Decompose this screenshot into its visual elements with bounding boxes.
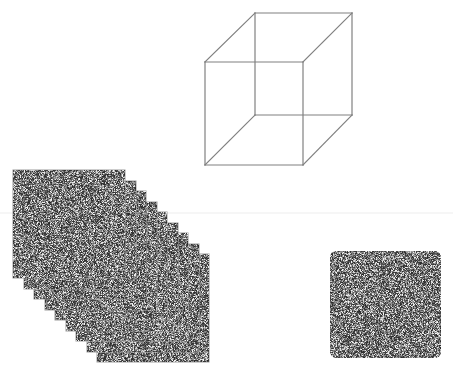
single-noise-patch-group: [0, 0, 453, 376]
figure-canvas: [0, 0, 453, 376]
single-noise-patch: [330, 251, 441, 358]
